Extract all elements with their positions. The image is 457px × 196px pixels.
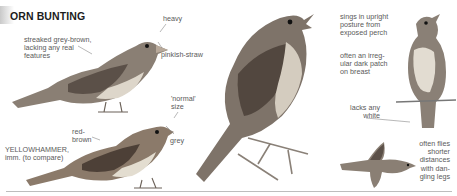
bottom-rule [6, 191, 452, 192]
field-guide-page: ORN BUNTING [0, 0, 457, 196]
leader-lines [0, 0, 457, 196]
